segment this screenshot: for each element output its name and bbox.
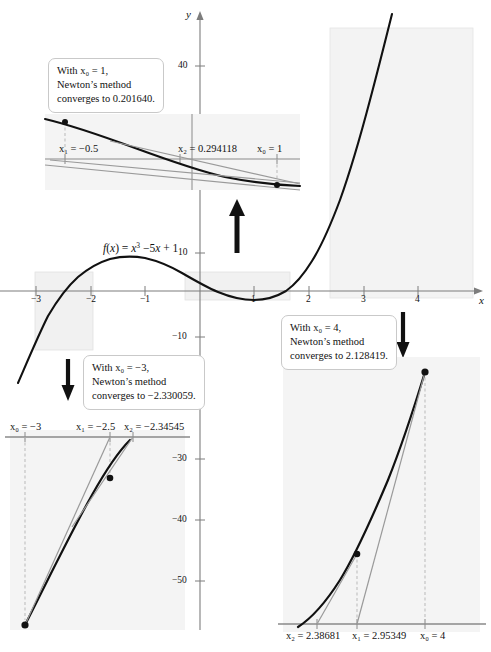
inset-bl-point-x0 (21, 621, 28, 628)
inset-bottom-right (278, 357, 486, 632)
callout-x0-neg3-line3: converges to −2.330059. (92, 389, 196, 403)
inset-br-label-x0: x₀ = 4 (420, 630, 445, 641)
inset-bl-label-x1: x₁ = −2.5 (76, 421, 115, 432)
callout-x0-4-line2: Newton’s method (290, 335, 388, 349)
inset-bottom-left (5, 430, 190, 630)
inset-top-label-x1: x₁ = −0.5 (59, 143, 98, 154)
inset-br-point-x1 (354, 551, 361, 558)
y-tick--50: −50 (172, 575, 187, 585)
inset-top-point-x1 (62, 119, 68, 125)
arrow-up-to-top-inset (229, 199, 245, 253)
callout-x0-4: With x₀ = 4, Newton’s method converges t… (281, 315, 397, 370)
callout-x0-1: With x₀ = 1, Newton’s method converges t… (48, 58, 164, 113)
x-tick-3: 3 (361, 294, 366, 304)
y-tick-40: 40 (178, 60, 188, 70)
y-tick--30: −30 (172, 453, 187, 463)
callout-x0-4-line3: converges to 2.128419. (290, 349, 388, 363)
callout-x0-neg3: With x₀ = −3, Newton’s method converges … (83, 355, 205, 410)
x-tick--3: −3 (31, 294, 41, 304)
inset-bl-label-x0: x₀ = −3 (10, 421, 41, 432)
x-tick-4: 4 (415, 294, 420, 304)
inset-br-label-x2: x₂ = 2.38681 (286, 630, 340, 641)
x-tick-1: 1 (251, 294, 256, 304)
callout-x0-neg3-line1: With x₀ = −3, (92, 361, 196, 375)
y-tick-10: 10 (178, 247, 188, 257)
inset-bl-label-x2: x₂ = −2.34545 (124, 421, 184, 432)
callout-x0-1-line1: With x₀ = 1, (57, 64, 155, 78)
inset-top-label-x2: x₂ = 0.294118 (178, 143, 237, 154)
x-tick-2: 2 (306, 294, 311, 304)
inset-top-label-x0: x₀ = 1 (257, 143, 282, 154)
callout-x0-1-line3: converges to 0.201640. (57, 92, 155, 106)
inset-top-point-x0 (274, 182, 280, 188)
callout-x0-neg3-line2: Newton’s method (92, 375, 196, 389)
y-tick--40: −40 (172, 514, 187, 524)
callout-x0-4-line1: With x₀ = 4, (290, 321, 388, 335)
x-tick--2: −2 (86, 294, 96, 304)
y-tick--10: −10 (172, 331, 187, 341)
x-tick--1: −1 (140, 294, 150, 304)
callout-x0-1-line2: Newton’s method (57, 78, 155, 92)
svg-text:f(x) = x3 −5x + 1: f(x) = x3 −5x + 1 (103, 241, 179, 256)
y-axis-label: y (186, 8, 191, 20)
arrow-down-to-left-inset (62, 359, 75, 401)
function-label-group: f(x) = x3 −5x + 1 (103, 241, 179, 256)
x-axis-label: x (479, 294, 484, 306)
inset-br-label-x1: x₁ = 2.95349 (352, 630, 406, 641)
inset-br-point-x0 (421, 368, 428, 375)
arrow-down-to-right-inset (397, 312, 410, 358)
highlight-region-left (35, 272, 93, 350)
inset-bl-point-x1 (107, 475, 114, 482)
main-y-axis (195, 11, 205, 630)
